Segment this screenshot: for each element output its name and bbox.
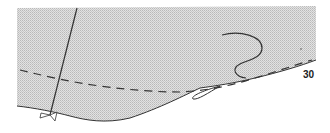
marking-dot — [300, 48, 302, 50]
notch-right-icon — [50, 112, 57, 121]
notch-left-icon — [40, 113, 50, 118]
pattern-canvas — [0, 0, 330, 133]
piece-number-label: 30 — [303, 69, 314, 80]
